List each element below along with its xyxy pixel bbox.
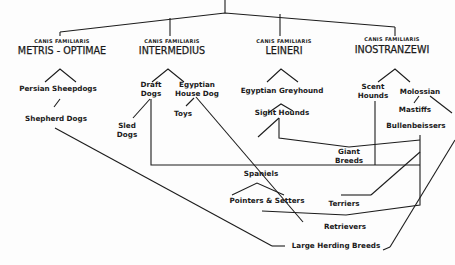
species-label: CANIS FAMILIARIS: [256, 38, 312, 45]
node-terriers: Terriers: [328, 199, 359, 208]
node-giant-breeds-line2: Breeds: [335, 156, 363, 165]
node-molossian: Molossian: [400, 87, 440, 96]
node-pointers-setters: Pointers & Setters: [230, 196, 305, 205]
species-label: CANIS FAMILIARIS: [364, 36, 420, 43]
node-spaniels: Spaniels: [244, 169, 278, 178]
species-label: CANIS FAMILIARIS: [34, 38, 90, 45]
node-sight-hounds: Sight Hounds: [255, 108, 309, 117]
node-scent-hounds: Scent: [362, 82, 385, 91]
node-toys: Toys: [174, 109, 192, 118]
node-persian-sheepdogs: Persian Sheepdogs: [19, 84, 97, 93]
node-retrievers: Retrievers: [324, 222, 366, 231]
node-egyptian-house-dog: Egyptian: [179, 80, 215, 89]
node-sled-dogs-line2: Dogs: [117, 130, 137, 139]
species-label: CANIS FAMILIARIS: [144, 38, 200, 45]
group-title-inostranzewi: INOSTRANZEWI: [355, 44, 429, 55]
node-draft-dogs: Draft: [141, 80, 162, 89]
node-bullenbeissers: Bullenbeissers: [386, 121, 445, 130]
node-giant-breeds: Giant: [338, 147, 360, 156]
group-title-leineri: LEINERI: [266, 45, 303, 56]
node-egyptian-house-dog-line2: House Dog: [175, 89, 219, 98]
dog-breed-diagram: CANIS FAMILIARIS METRIS - OPTIMAE CANIS …: [0, 0, 455, 265]
node-egyptian-greyhound: Egyptian Greyhound: [241, 86, 324, 95]
node-sled-dogs: Sled: [118, 121, 136, 130]
group-title-metris-optimae: METRIS - OPTIMAE: [18, 45, 106, 56]
node-large-herding-breeds: Large Herding Breeds: [292, 241, 381, 250]
group-title-intermedius: INTERMEDIUS: [139, 45, 205, 56]
node-mastiffs: Mastiffs: [399, 105, 431, 114]
node-shepherd-dogs: Shepherd Dogs: [25, 114, 87, 123]
node-draft-dogs-line2: Dogs: [141, 89, 161, 98]
node-scent-hounds-line2: Hounds: [358, 91, 389, 100]
